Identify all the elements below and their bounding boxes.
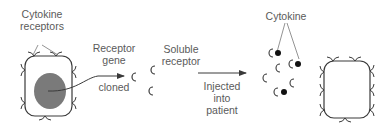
label-line: gene bbox=[91, 54, 137, 66]
label-cloned: cloned bbox=[94, 81, 134, 93]
label-cytokine-receptors: Cytokine receptors bbox=[20, 8, 64, 32]
label-soluble-receptor: Soluble receptor bbox=[158, 43, 204, 67]
label-line: patient bbox=[200, 104, 244, 116]
label-cytokine: Cytokine bbox=[264, 10, 308, 22]
label-line: Soluble bbox=[158, 43, 204, 55]
label-line: receptor bbox=[158, 55, 204, 67]
label-line: Injected bbox=[200, 80, 244, 92]
label-line: into bbox=[200, 92, 244, 104]
label-injected-into-patient: Injected into patient bbox=[200, 80, 244, 116]
left-cell bbox=[21, 45, 76, 120]
label-line: Cytokine bbox=[20, 8, 64, 20]
label-line: Receptor bbox=[91, 42, 137, 54]
right-cell bbox=[320, 57, 374, 122]
soluble-receptors bbox=[132, 66, 155, 95]
label-line: receptors bbox=[20, 20, 64, 32]
cytokine-complexes bbox=[263, 23, 301, 96]
label-receptor-gene: Receptor gene bbox=[91, 42, 137, 66]
